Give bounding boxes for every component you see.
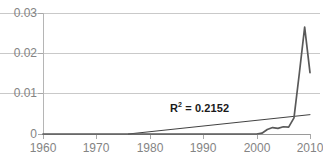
y-tick-label-0.01: 0.01 xyxy=(14,87,37,99)
x-tick-label-1980: 1980 xyxy=(137,141,164,155)
r-squared-base: R xyxy=(170,102,178,114)
y-tick-label-0.03: 0.03 xyxy=(14,7,37,19)
data-series xyxy=(43,27,310,134)
y-tick-label-0: 0 xyxy=(30,128,37,140)
r-squared-annotation: R2 = 0.2152 xyxy=(170,101,229,114)
x-tick-label-1990: 1990 xyxy=(190,141,217,155)
r-squared-value: = 0.2152 xyxy=(182,102,229,114)
y-tick-label-0.02: 0.02 xyxy=(14,47,37,59)
chart-title xyxy=(0,0,320,1)
x-tick-label-1960: 1960 xyxy=(30,141,57,155)
x-tick-label-2000: 2000 xyxy=(244,141,271,155)
x-tick-mark-2010 xyxy=(310,134,311,139)
trendline-series xyxy=(128,115,310,134)
plot-area xyxy=(43,13,310,134)
x-tick-label-2010: 2010 xyxy=(297,141,323,155)
x-tick-label-1970: 1970 xyxy=(83,141,110,155)
